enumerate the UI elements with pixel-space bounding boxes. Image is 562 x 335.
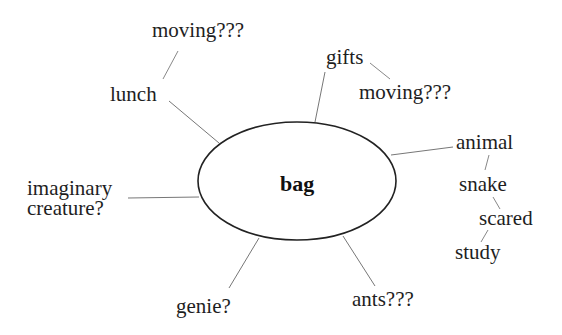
edge-bag-animal (391, 147, 453, 155)
center-node-label: bag (280, 174, 314, 194)
node-lunch: lunch (110, 84, 157, 104)
edge-bag-genie (229, 238, 259, 288)
edge-bag-gifts (315, 72, 325, 122)
node-scared: scared (479, 208, 533, 228)
edge-bag-imaginary (128, 197, 199, 198)
node-imaginary-line2: creature? (27, 198, 104, 218)
node-snake: snake (459, 174, 507, 194)
mind-map-canvas: bag moving??? lunch gifts moving??? anim… (0, 0, 562, 335)
node-animal: animal (456, 132, 513, 152)
edge-animal-snake (485, 155, 489, 170)
connector-layer (0, 0, 562, 335)
node-gifts: gifts (326, 47, 363, 67)
node-genie: genie? (176, 296, 231, 316)
node-moving-right: moving??? (359, 82, 451, 102)
edge-lunch-moving (163, 51, 178, 79)
edge-bag-lunch (169, 101, 219, 143)
node-moving-top: moving??? (152, 20, 244, 40)
node-imaginary-line1: imaginary (27, 178, 112, 198)
node-study: study (455, 242, 501, 262)
edge-gifts-moving (370, 63, 390, 79)
node-ants: ants??? (352, 289, 414, 309)
edge-bag-ants (343, 236, 375, 286)
